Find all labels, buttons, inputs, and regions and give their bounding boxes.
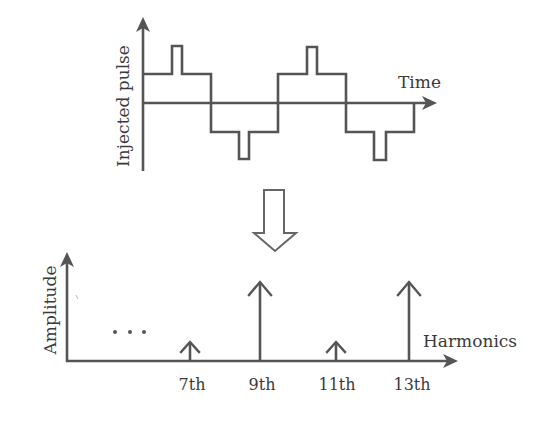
pulse-time-axis-label: Time [398,72,441,92]
harmonic-7th-arrow [181,342,199,361]
harmonic-label-13th: 13th [393,375,430,394]
pulse-waveform-panel: Injected pulse Time [113,17,441,171]
harmonic-label-9th: 9th [249,375,276,394]
harmonic-13th-arrow [398,282,420,361]
diagram-canvas: Injected pulse Time [0,0,548,426]
amplitude-axis-label: Amplitude [40,266,60,356]
harmonic-11th-arrow [327,342,345,361]
ellipsis-dots [113,330,146,334]
scan-artifact [76,295,78,299]
harmonics-axis-label: Harmonics [423,331,517,351]
harmonic-label-7th: 7th [179,375,206,394]
harmonic-label-11th: 11th [318,375,355,394]
harmonic-9th-arrow [249,282,271,361]
pulse-y-axis-label: Injected pulse [113,45,133,167]
hollow-down-arrow-icon [254,190,296,251]
harmonic-spectrum-panel: 7th 9th 11th 13th Amplitude Harmonics [40,252,517,394]
